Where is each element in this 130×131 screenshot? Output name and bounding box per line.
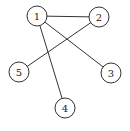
node-label: 4 bbox=[62, 103, 68, 114]
edge-1-4 bbox=[37, 16, 65, 108]
node-4: 4 bbox=[55, 98, 75, 118]
node-label: 5 bbox=[16, 67, 22, 78]
node-5: 5 bbox=[9, 62, 29, 82]
edge-2-5 bbox=[19, 17, 99, 72]
node-label: 2 bbox=[96, 12, 102, 23]
node-label: 3 bbox=[108, 68, 114, 79]
edges-layer bbox=[19, 16, 111, 108]
nodes-layer: 12345 bbox=[9, 6, 121, 118]
node-2: 2 bbox=[89, 7, 109, 27]
node-1: 1 bbox=[27, 6, 47, 26]
node-3: 3 bbox=[101, 63, 121, 83]
graph-diagram: 12345 bbox=[0, 0, 130, 131]
node-label: 1 bbox=[34, 11, 40, 22]
